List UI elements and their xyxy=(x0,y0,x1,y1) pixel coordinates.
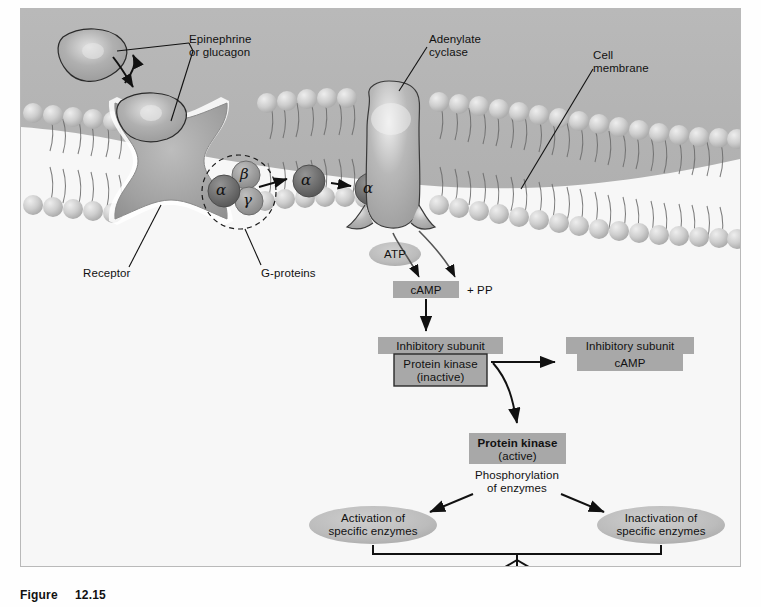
label-activation: Activation of specific enzymes xyxy=(311,512,435,537)
label-protein-kinase-inactive-1: Protein kinase xyxy=(394,358,487,371)
figure-panel-stage: Epinephrine or glucagon Adenylate cyclas… xyxy=(0,0,761,607)
figure-caption-number: 12.15 xyxy=(75,588,106,602)
label-beta-subunit: β xyxy=(240,165,249,183)
label-inhibitory-subunit-left: Inhibitory subunit xyxy=(378,340,503,353)
label-phosphorylation: Phosphorylation of enzymes xyxy=(447,469,587,494)
label-protein-kinase-active-1: Protein kinase xyxy=(469,437,566,450)
label-camp-bound: cAMP xyxy=(577,357,683,370)
label-atp: ATP xyxy=(369,248,421,261)
label-protein-kinase-inactive-2: (inactive) xyxy=(394,371,487,384)
diagram-canvas xyxy=(21,9,740,566)
label-receptor: Receptor xyxy=(83,267,130,280)
label-epinephrine-or-glucagon: Epinephrine or glucagon xyxy=(189,33,251,58)
label-pp: + PP xyxy=(467,284,493,297)
label-inhibitory-subunit-right: Inhibitory subunit xyxy=(566,340,694,353)
label-g-proteins: G-proteins xyxy=(261,267,316,280)
cell-signaling-diagram: Epinephrine or glucagon Adenylate cyclas… xyxy=(20,8,741,567)
ligand-bound xyxy=(117,93,187,142)
figure-caption: Figure 12.15 xyxy=(20,588,106,602)
figure-caption-label: Figure xyxy=(20,588,58,602)
label-alpha-subunit: α xyxy=(216,181,226,199)
label-adenylate-cyclase: Adenylate cyclase xyxy=(429,33,481,58)
label-gamma-subunit: γ xyxy=(243,191,252,209)
label-alpha-free-1: α xyxy=(301,171,311,189)
label-camp: cAMP xyxy=(393,284,459,297)
label-protein-kinase-active-2: (active) xyxy=(469,450,566,463)
label-cell-membrane: Cell membrane xyxy=(593,49,649,74)
label-alpha-free-2: α xyxy=(363,179,373,197)
label-inactivation: Inactivation of specific enzymes xyxy=(599,512,723,537)
